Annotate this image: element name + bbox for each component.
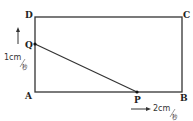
vertex-label-b: B (180, 93, 188, 103)
point-q-dot (33, 42, 36, 45)
point-label-p: P (134, 95, 141, 105)
vertex-label-a: A (24, 91, 33, 101)
point-p-dot (135, 90, 138, 93)
arrow-right-icon (131, 107, 151, 111)
speed-p-value: 2cm (153, 104, 170, 113)
point-label-q: Q (25, 40, 33, 50)
vertex-label-c: C (183, 10, 190, 20)
speed-q-unit: 秒 (22, 63, 28, 71)
speed-p-unit: 秒 (172, 113, 178, 121)
speed-q-value: 1cm (4, 53, 21, 62)
rectangle-diagram: D C A B Q P 1cm 秒 2cm 秒 (0, 0, 193, 121)
segment-qp (35, 44, 137, 92)
arrow-up-icon (16, 27, 20, 44)
vertex-label-d: D (25, 10, 33, 20)
